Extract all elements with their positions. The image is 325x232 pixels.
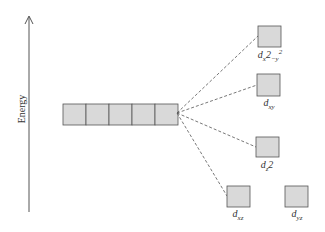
energy-axis-label: Energy [16, 95, 27, 124]
orbital-box [63, 104, 86, 125]
label-dx2-y2: dx2−y2 [258, 48, 282, 63]
line-dxz [177, 113, 227, 196]
orbital-box-dxy [257, 74, 280, 96]
label-dxz: dxz [233, 208, 244, 222]
splitting-lines [177, 36, 258, 196]
orbital-box [109, 104, 132, 125]
orbital-box [86, 104, 109, 125]
orbital-box [132, 104, 155, 125]
line-dxy [177, 85, 257, 113]
line-dx2y2 [177, 36, 258, 113]
label-dyz: dyz [292, 208, 303, 222]
degenerate-orbitals [63, 104, 178, 125]
splitting-diagram [0, 0, 325, 232]
label-dxy: dxy [263, 97, 274, 111]
orbital-box-dyz [285, 186, 308, 207]
orbital-box-dz2 [256, 137, 279, 157]
orbital-box [155, 104, 178, 125]
label-dz2: dz2 [261, 159, 274, 173]
orbital-box-dx2-y2 [258, 26, 281, 47]
line-dz2 [177, 113, 256, 147]
orbital-box-dxz [227, 186, 250, 207]
